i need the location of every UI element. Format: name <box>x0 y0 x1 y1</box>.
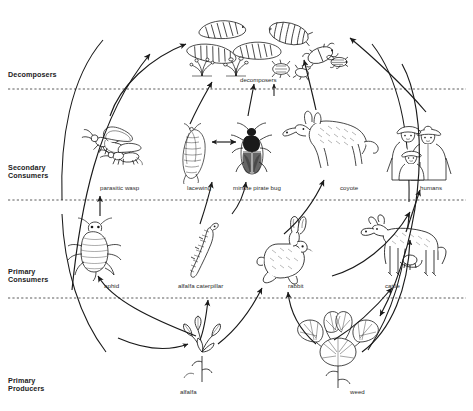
parasitic-wasp-illustration <box>79 122 143 170</box>
tier-label-primary-consumers: Primary Consumers <box>8 268 48 285</box>
weed-illustration <box>298 312 379 388</box>
cattle-illustration <box>361 215 446 276</box>
alfalfa-caterpillar-illustration <box>190 223 218 277</box>
organism-label-decomposers: decomposers <box>240 76 277 83</box>
organism-label-coyote: coyote <box>340 184 358 191</box>
organism-label-cattle: cattle <box>385 282 400 289</box>
organism-label-alfalfa: alfalfa <box>180 388 197 395</box>
arrow-cattle-to-humans <box>406 190 420 232</box>
organism-label-humans: humans <box>420 184 442 191</box>
aphid-illustration <box>68 218 121 281</box>
arrow-alfalfa-to-rabbit <box>218 288 262 344</box>
lacewing-illustration <box>183 123 205 184</box>
arrow-coyote-to-decomposers <box>304 60 316 110</box>
minute-pirate-bug-illustration <box>231 123 272 174</box>
arrow-cycle-bottom-left <box>118 338 188 349</box>
rabbit-illustration <box>257 216 312 284</box>
diagram-artwork <box>0 0 473 411</box>
tier-label-secondary-consumers: Secondary Consumers <box>8 164 48 181</box>
tier-label-decomposers: Decomposers <box>8 71 57 79</box>
organism-label-parasitic-wasp: parasitic wasp <box>100 184 139 191</box>
decomposer-illustrations <box>186 17 348 81</box>
organism-label-rabbit: rabbit <box>288 282 304 289</box>
organism-label-minute-pirate-bug: minute pirate bug <box>233 184 281 191</box>
alfalfa-illustration <box>183 316 220 382</box>
organism-label-lacewing: lacewing <box>187 184 211 191</box>
organism-label-weed: weed <box>350 388 365 395</box>
arrow-lacewing-to-decomposers <box>190 82 212 124</box>
coyote-illustration <box>283 111 378 168</box>
food-web-diagram: Decomposers Secondary Consumers Primary … <box>0 0 473 411</box>
organism-label-aphid: aphid <box>104 282 119 289</box>
organism-label-alfalfa-caterpillar: alfalfa caterpillar <box>178 282 223 289</box>
flow-arrows <box>72 38 426 344</box>
tier-label-primary-producers: Primary Producers <box>8 377 44 394</box>
